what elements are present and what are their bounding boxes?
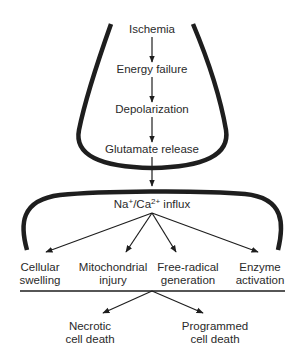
- arrow-to-programmed: [152, 291, 203, 313]
- effect-line2: generation: [157, 274, 218, 287]
- effect-line2: swelling: [20, 274, 61, 287]
- effect-enzyme-activation: Enzyme activation: [236, 261, 285, 287]
- effect-line2: activation: [236, 274, 285, 287]
- step-depolarization: Depolarization: [115, 103, 189, 116]
- arrow-influx-to-free-radical: [152, 213, 176, 252]
- influx-label: Na+/Ca2+ influx: [114, 198, 190, 211]
- influx-text: influx: [160, 198, 190, 210]
- step-energy-failure: Energy failure: [117, 63, 188, 76]
- outcome-line1: Necrotic: [65, 320, 114, 333]
- outcome-line2: cell death: [182, 333, 248, 346]
- step-glutamate-release: Glutamate release: [105, 143, 199, 156]
- effect-line1: Free-radical: [157, 261, 218, 274]
- arrow-influx-to-mitochondrial: [126, 213, 152, 252]
- effect-mitochondrial-injury: Mitochondrial injury: [79, 261, 147, 287]
- influx-na: Na: [114, 198, 129, 210]
- effect-line2: injury: [79, 274, 147, 287]
- effect-line1: Cellular: [20, 261, 61, 274]
- effect-line1: Mitochondrial: [79, 261, 147, 274]
- outcome-line2: cell death: [65, 333, 114, 346]
- arrow-to-necrotic: [103, 291, 152, 313]
- arrow-influx-to-enzyme: [152, 213, 258, 252]
- outcome-line1: Programmed: [182, 320, 248, 333]
- arrow-influx-to-swelling: [46, 213, 152, 252]
- effect-free-radical-generation: Free-radical generation: [157, 261, 218, 287]
- influx-ca: /Ca: [133, 198, 151, 210]
- outcome-programmed-cell-death: Programmed cell death: [182, 320, 248, 346]
- step-ischemia: Ischemia: [129, 23, 175, 36]
- effect-cellular-swelling: Cellular swelling: [20, 261, 61, 287]
- diagram-canvas: [0, 0, 306, 352]
- effect-line1: Enzyme: [236, 261, 285, 274]
- outcome-necrotic-cell-death: Necrotic cell death: [65, 320, 114, 346]
